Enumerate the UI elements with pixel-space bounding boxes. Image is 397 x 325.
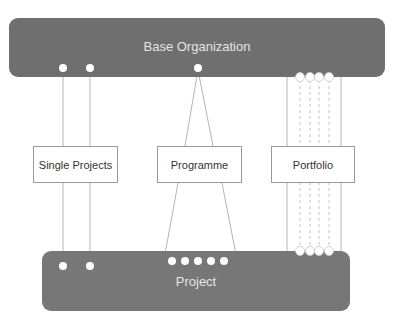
programme-label: Programme [171, 159, 228, 171]
programme-box: Programme [157, 146, 242, 183]
single-projects-box: Single Projects [33, 146, 118, 183]
base-organization-label: Base Organization [9, 39, 385, 54]
single-projects-label: Single Projects [39, 159, 112, 171]
base-organization-bar: Base Organization [9, 18, 385, 77]
portfolio-label: Portfolio [293, 159, 333, 171]
portfolio-box: Portfolio [271, 146, 355, 183]
project-bar: Project [42, 251, 350, 311]
project-label: Project [42, 274, 350, 289]
